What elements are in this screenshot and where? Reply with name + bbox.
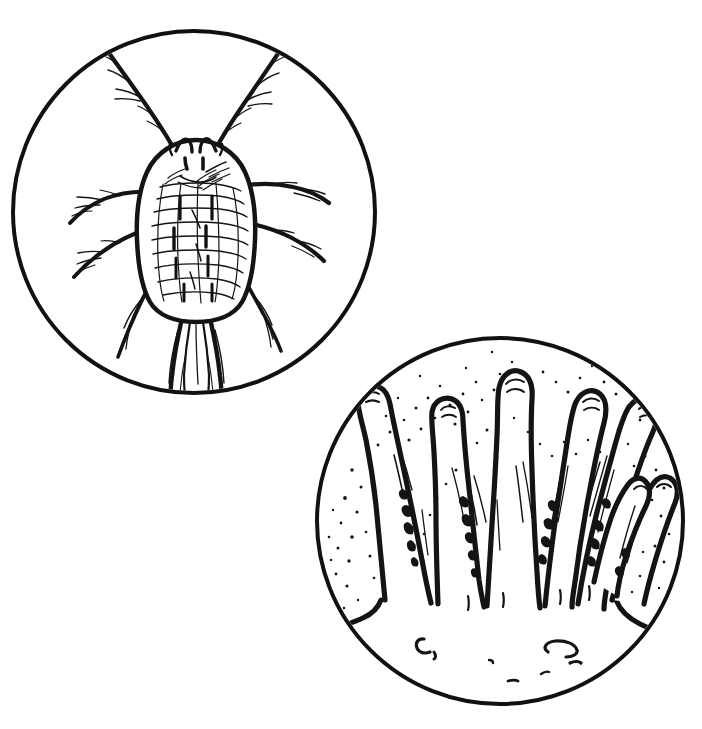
- scan-bleed-artifact: faint bleed-through text: [18, 694, 348, 722]
- illustration-canvas: [0, 0, 702, 729]
- mite-idiosoma-outline: [137, 140, 255, 322]
- figure-root: faint bleed-through text: [0, 0, 702, 729]
- panel-trichomes: [317, 338, 683, 704]
- mite-eyespot-left: [185, 158, 187, 169]
